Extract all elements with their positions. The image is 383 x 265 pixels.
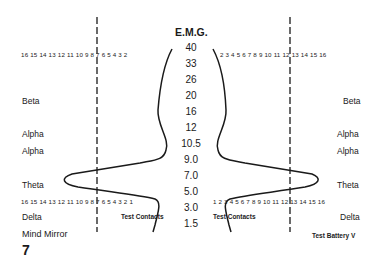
emg-value: 10.5 bbox=[171, 138, 211, 149]
right-scale-top: 2 3 4 5 6 7 8 9 10 11 12 13 14 15 16 bbox=[220, 51, 327, 58]
band-label-alpha-left: Alpha bbox=[22, 129, 44, 139]
emg-value: 26 bbox=[171, 74, 211, 85]
emg-value: 3.0 bbox=[171, 202, 211, 213]
left-scale-top: 16 15 14 13 12 11 10 9 8 7 6 5 4 3 2 bbox=[21, 51, 128, 58]
band-label-beta-right: Beta bbox=[343, 96, 361, 106]
test-contacts-left: Test Contacts bbox=[121, 213, 164, 220]
emg-value: 16 bbox=[171, 106, 211, 117]
figure-number: 7 bbox=[22, 242, 30, 258]
emg-value: 12 bbox=[171, 122, 211, 133]
test-contacts-right: Test Contacts bbox=[213, 213, 256, 220]
emg-value: 9.0 bbox=[171, 154, 211, 165]
emg-title: E.M.G. bbox=[175, 26, 208, 38]
band-label-delta-left: Delta bbox=[22, 212, 42, 222]
emg-value: 40 bbox=[171, 42, 211, 53]
left-scale-bottom: 16 15 14 13 12 11 10 9 8 7 6 5 4 3 2 1 bbox=[21, 198, 133, 205]
emg-value: 20 bbox=[171, 90, 211, 101]
right-scale-bottom: 1 2 3 4 5 6 7 8 9 10 11 12 13 14 15 16 bbox=[213, 198, 325, 205]
emg-value: 1.5 bbox=[171, 218, 211, 229]
test-battery-label: Test Battery V bbox=[312, 232, 355, 239]
emg-value: 7.0 bbox=[171, 170, 211, 181]
band-label-alpha-left: Alpha bbox=[22, 146, 44, 156]
emg-value: 33 bbox=[171, 58, 211, 69]
band-label-alpha-right: Alpha bbox=[337, 129, 359, 139]
emg-value: 5.0 bbox=[171, 186, 211, 197]
caption-mind-mirror: Mind Mirror bbox=[22, 229, 68, 239]
band-label-theta-left: Theta bbox=[22, 180, 44, 190]
band-label-theta-right: Theta bbox=[337, 180, 359, 190]
band-label-delta-right: Delta bbox=[340, 212, 360, 222]
band-label-beta-left: Beta bbox=[22, 96, 40, 106]
band-label-alpha-right: Alpha bbox=[337, 146, 359, 156]
